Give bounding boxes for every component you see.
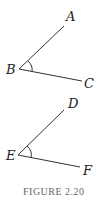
label-f: F [82,163,93,178]
angle-arc-e [27,146,31,158]
ray-bc [19,69,82,81]
ray-ba [19,26,64,69]
figure-diagram: A B C D E F FIGURE 2.20 [0,0,102,202]
figure-caption: FIGURE 2.20 [23,186,85,197]
label-e: E [5,148,16,163]
label-c: C [84,76,94,91]
label-b: B [5,62,16,77]
ray-ef [18,155,80,167]
angle-def: D E F [5,96,93,178]
ray-ed [18,110,64,155]
angle-abc: A B C [5,9,94,91]
label-d: D [67,96,79,111]
label-a: A [65,9,75,24]
